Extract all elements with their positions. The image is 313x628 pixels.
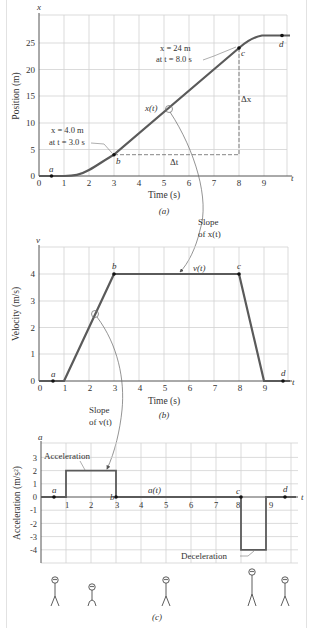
annotation-c-line2: at t = 8.0 s	[156, 54, 192, 64]
curve-label: x(t)	[144, 103, 158, 113]
y-ticks: 3 2 1 0 -1 -2 -3 -4	[30, 453, 38, 555]
stick-figure-stretched	[248, 569, 256, 606]
x-axis-label: Time (s)	[148, 190, 180, 201]
annotation-c-line1: x = 24 m	[160, 43, 191, 53]
panel-label-c: (c)	[152, 612, 162, 622]
deceleration-leader	[240, 551, 254, 556]
acceleration-chart: a t 3 2 1 0 -1 -2 -3 -4 12 34 56 78 9 Ac…	[12, 432, 304, 622]
y-axis-label: Acceleration (m/s²)	[12, 466, 23, 540]
svg-text:8: 8	[238, 383, 243, 393]
svg-text:4: 4	[137, 178, 142, 188]
panel-label-a: (a)	[159, 206, 170, 216]
point-c-label: c	[241, 48, 245, 58]
delta-t-label: Δt	[170, 157, 179, 167]
point-a	[50, 174, 54, 178]
annotation-b-leader	[91, 143, 112, 153]
svg-text:0: 0	[33, 492, 37, 502]
x-ticks: 01 23 45 67 89	[38, 383, 268, 393]
y-axis-symbol: v	[36, 235, 40, 245]
point-d	[281, 379, 285, 383]
point-b	[112, 272, 116, 276]
point-a-label: a	[52, 485, 57, 495]
svg-text:2: 2	[31, 323, 36, 333]
svg-text:1: 1	[65, 500, 69, 510]
svg-text:2: 2	[33, 466, 37, 476]
svg-text:3: 3	[31, 296, 36, 306]
stick-figures	[51, 569, 289, 606]
svg-text:9: 9	[269, 500, 273, 510]
y-axis-symbol: a	[38, 432, 43, 442]
svg-text:9: 9	[263, 383, 268, 393]
svg-text:5: 5	[162, 178, 167, 188]
svg-text:5: 5	[164, 500, 168, 510]
x-axis-label: Time (s)	[148, 396, 180, 407]
y-ticks: 0 1 2 3 4	[31, 269, 36, 386]
stick-figure-upright	[51, 577, 59, 606]
svg-text:1: 1	[63, 383, 68, 393]
svg-text:6: 6	[189, 500, 193, 510]
y-axis-symbol: x	[36, 2, 41, 12]
svg-text:8: 8	[236, 500, 240, 510]
svg-text:15: 15	[26, 91, 36, 101]
svg-text:0: 0	[31, 171, 36, 181]
point-c	[237, 272, 241, 276]
slope-v-label-1: Slope	[89, 405, 110, 415]
slope-x-label-2: of x(t)	[198, 229, 221, 239]
svg-text:1: 1	[62, 178, 67, 188]
grid	[41, 443, 298, 563]
svg-text:5: 5	[163, 383, 168, 393]
svg-text:6: 6	[188, 383, 193, 393]
svg-text:0: 0	[38, 383, 43, 393]
svg-text:3: 3	[115, 500, 119, 510]
point-c-label: c	[237, 261, 241, 271]
slope-x-label-1: Slope	[198, 217, 219, 227]
svg-text:0: 0	[31, 376, 36, 386]
svg-text:5: 5	[31, 145, 36, 155]
y-axis-label: Position (m)	[11, 72, 22, 119]
velocity-chart: v t 0 1 2 3 4 01 23 45 67 89 Velocity (m…	[11, 235, 295, 420]
svg-text:20: 20	[26, 65, 36, 75]
acceleration-leader	[80, 461, 85, 470]
point-a-label: a	[51, 369, 56, 379]
point-d-label: d	[279, 39, 284, 49]
svg-text:4: 4	[31, 269, 36, 279]
x-axis-symbol: t	[292, 377, 295, 387]
curve-label: v(t)	[193, 263, 206, 273]
stick-figure-upright	[281, 577, 289, 606]
point-c-label: c	[236, 486, 240, 496]
x-ticks: 01 23 45 67 89	[37, 178, 267, 188]
annotation-b-line2: at t = 3.0 s	[49, 137, 85, 147]
svg-text:6: 6	[187, 178, 192, 188]
svg-text:-3: -3	[30, 532, 37, 542]
stick-figure-upright	[162, 577, 170, 606]
svg-text:4: 4	[138, 383, 143, 393]
point-d-label: d	[283, 484, 288, 494]
point-d	[283, 495, 287, 499]
svg-text:25: 25	[26, 38, 36, 48]
y-axis-label: Velocity (m/s)	[11, 287, 22, 341]
point-d-label: d	[281, 368, 286, 378]
grid	[39, 247, 288, 381]
svg-text:8: 8	[237, 178, 242, 188]
svg-text:9: 9	[262, 178, 267, 188]
point-b-label: b	[110, 492, 115, 502]
deceleration-label: Deceleration	[181, 551, 227, 561]
svg-text:3: 3	[33, 453, 37, 463]
svg-text:7: 7	[213, 383, 218, 393]
delta-x-label: Δx	[241, 94, 252, 104]
point-a-label: a	[49, 164, 54, 174]
svg-text:2: 2	[89, 500, 93, 510]
svg-text:7: 7	[214, 500, 218, 510]
slope-arrow-v-to-a	[97, 317, 123, 469]
svg-text:3: 3	[113, 383, 118, 393]
svg-text:10: 10	[26, 118, 36, 128]
point-a	[51, 379, 55, 383]
position-chart: x t 0 5 10 15 20 25 01 23 45 67 89 Posit…	[11, 2, 294, 216]
x-axis-symbol: t	[291, 173, 294, 183]
svg-text:-1: -1	[30, 505, 37, 515]
svg-text:2: 2	[88, 383, 93, 393]
svg-text:7: 7	[212, 178, 217, 188]
svg-text:-4: -4	[30, 545, 38, 555]
slope-v-label-2: of v(t)	[89, 417, 112, 427]
x-axis-symbol: t	[301, 492, 304, 502]
